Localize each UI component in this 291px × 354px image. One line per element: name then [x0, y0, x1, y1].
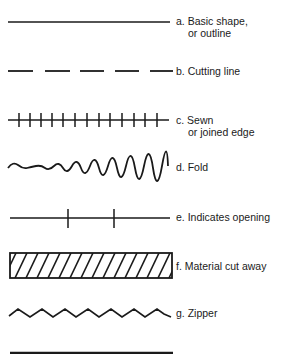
fold-symbol — [8, 152, 168, 182]
label-zipper: g. Zipper — [176, 307, 217, 319]
label-d-line1: d. Fold — [176, 161, 208, 173]
label-basic-shape: a. Basic shape, or outline — [176, 15, 248, 39]
label-b-line1: b. Cutting line — [176, 65, 240, 77]
sewn-edge-symbol — [8, 113, 169, 127]
opening-symbol — [10, 209, 170, 228]
label-opening: e. Indicates opening — [176, 211, 270, 223]
label-c-line1: c. Sewn — [176, 114, 213, 126]
zipper-symbol — [9, 309, 171, 317]
label-f-line1: f. Material cut away — [176, 260, 266, 272]
label-sewn-edge: c. Sewn or joined edge — [176, 114, 255, 138]
label-a-line1: a. Basic shape, — [176, 15, 248, 27]
symbols-canvas — [0, 0, 291, 354]
label-a-line2: or outline — [176, 27, 248, 39]
material-cut-away-symbol — [4, 253, 181, 278]
label-material-cut-away: f. Material cut away — [176, 260, 266, 272]
label-e-line1: e. Indicates opening — [176, 211, 270, 223]
label-cutting-line: b. Cutting line — [176, 65, 240, 77]
label-fold: d. Fold — [176, 161, 208, 173]
label-g-line1: g. Zipper — [176, 307, 217, 319]
label-c-line2: or joined edge — [176, 126, 255, 138]
